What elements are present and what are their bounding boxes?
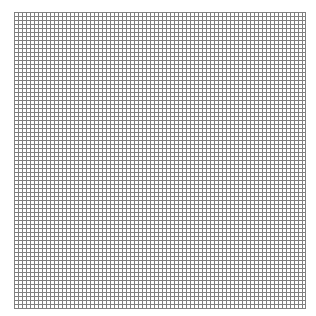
graph-paper-grid bbox=[14, 12, 306, 309]
